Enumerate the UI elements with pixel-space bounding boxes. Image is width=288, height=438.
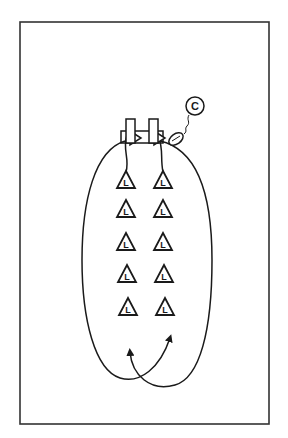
field-frame (20, 22, 269, 424)
player-triangle: L (154, 233, 172, 250)
svg-text:L: L (160, 178, 166, 188)
player-triangle: L (119, 298, 137, 315)
svg-text:L: L (123, 178, 129, 188)
coach-ball-line (184, 115, 189, 134)
player-triangle: L (117, 171, 135, 188)
player-triangle: L (118, 265, 136, 282)
player-triangle: L (117, 233, 135, 250)
blocking-dummy-left (126, 119, 135, 143)
player-triangle: L (156, 298, 174, 315)
player-triangle: L (117, 200, 135, 217)
player-triangle: L (154, 171, 172, 188)
coach-label: C (191, 100, 199, 112)
svg-text:L: L (160, 240, 166, 250)
player-triangle: L (154, 200, 172, 217)
route-right-loop (130, 141, 212, 387)
svg-text:L: L (162, 305, 168, 315)
svg-text:L: L (160, 207, 166, 217)
svg-text:L: L (125, 305, 131, 315)
svg-text:L: L (161, 272, 167, 282)
svg-text:L: L (124, 272, 130, 282)
player-column-right: L L L L L (154, 171, 174, 315)
drill-diagram: C L L L L L L L (0, 0, 288, 438)
player-column-left: L L L L L (117, 171, 137, 315)
player-triangle: L (155, 265, 173, 282)
svg-text:L: L (123, 240, 129, 250)
svg-text:L: L (123, 207, 129, 217)
blocking-dummy-right (149, 119, 158, 143)
